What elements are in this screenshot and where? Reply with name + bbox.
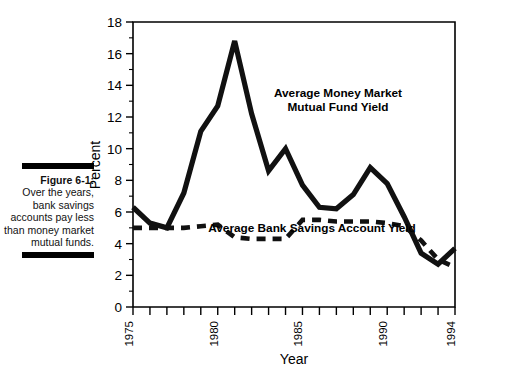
y-tick-label: 12 xyxy=(107,110,122,125)
figure-6-1: Figure 6-1: Over the years, bank savings… xyxy=(0,0,508,377)
y-tick-label: 14 xyxy=(107,78,123,93)
x-tick-label: 1985 xyxy=(292,321,304,347)
y-tick-label: 16 xyxy=(107,47,122,62)
y-tick-label: 8 xyxy=(114,173,122,188)
y-tick-label: 2 xyxy=(114,268,122,283)
y-tick-label: 10 xyxy=(107,142,122,157)
chart-plot-area: 024681012141618 19751980198519901994 Per… xyxy=(0,0,508,377)
line-chart-svg: 024681012141618 19751980198519901994 Per… xyxy=(0,0,508,377)
y-tick-label: 4 xyxy=(114,237,122,252)
y-tick-label: 18 xyxy=(107,15,122,30)
x-axis-title: Year xyxy=(280,351,309,367)
series-label-bank-savings: Average Bank Savings Account Yield xyxy=(208,221,416,235)
series-label-money-market-line2: Mutual Fund Yield xyxy=(288,100,389,114)
x-tick-label: 1975 xyxy=(123,321,135,347)
x-tick-label: 1990 xyxy=(377,321,389,347)
x-tick-label: 1994 xyxy=(445,320,457,346)
y-tick-label: 6 xyxy=(114,205,122,220)
x-axis-ticks xyxy=(133,307,455,315)
y-axis-tick-labels: 024681012141618 xyxy=(107,15,123,315)
x-tick-label: 1980 xyxy=(208,321,220,347)
series-label-money-market-line1: Average Money Market xyxy=(274,86,402,100)
y-tick-label: 0 xyxy=(114,300,122,315)
x-axis-tick-labels: 19751980198519901994 xyxy=(123,320,457,346)
y-axis-title: Percent xyxy=(87,141,103,189)
